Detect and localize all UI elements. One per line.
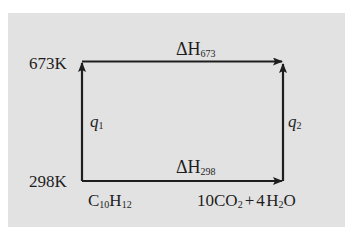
delta-h-298-label: ΔH298 <box>176 158 216 177</box>
products-formula: 10CO2+4 H2O <box>197 192 296 210</box>
reactant-formula: C10H12 <box>88 192 132 210</box>
temp-high-label: 673K <box>29 55 67 72</box>
delta-h-673-label: ΔH673 <box>176 40 216 59</box>
cycle-arrows <box>0 0 363 243</box>
q2-label: q2 <box>288 113 302 131</box>
q1-label: q1 <box>90 113 104 131</box>
temp-low-label: 298K <box>29 173 67 190</box>
